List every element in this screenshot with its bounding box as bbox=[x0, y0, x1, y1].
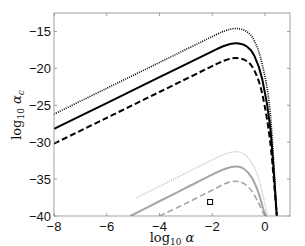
y-tick-label: −20 bbox=[29, 61, 51, 76]
series-lower-dotted-gray bbox=[136, 152, 268, 216]
y-tick-labels: −15−20−25−30−35−40 bbox=[29, 24, 51, 224]
y-axis-label: log10 αc bbox=[9, 90, 26, 140]
x-axis-label: log10 α bbox=[150, 230, 195, 246]
series-upper-dotted-black bbox=[54, 28, 277, 216]
y-tick-label: −35 bbox=[29, 172, 51, 187]
series-lower-dashed-gray bbox=[159, 181, 264, 216]
plot-lines bbox=[54, 28, 277, 216]
y-tick-label: −15 bbox=[29, 24, 51, 39]
y-tick-label: −25 bbox=[29, 98, 51, 113]
y-tick-label: −30 bbox=[29, 135, 51, 150]
plot-frame bbox=[54, 13, 290, 216]
y-tick-label: −40 bbox=[29, 209, 51, 224]
series-lower-solid-gray bbox=[130, 167, 266, 216]
x-tick-label: −6 bbox=[99, 219, 114, 234]
series-upper-dashed-black bbox=[54, 58, 277, 216]
square-marker bbox=[208, 199, 213, 204]
series-upper-solid-black bbox=[54, 43, 277, 216]
x-tick-label: 0 bbox=[261, 219, 268, 234]
x-tick-label: −2 bbox=[205, 219, 220, 234]
chart: −8−6−4−20 −15−20−25−30−35−40 log10 α log… bbox=[0, 0, 305, 246]
axis-ticks bbox=[54, 13, 290, 216]
